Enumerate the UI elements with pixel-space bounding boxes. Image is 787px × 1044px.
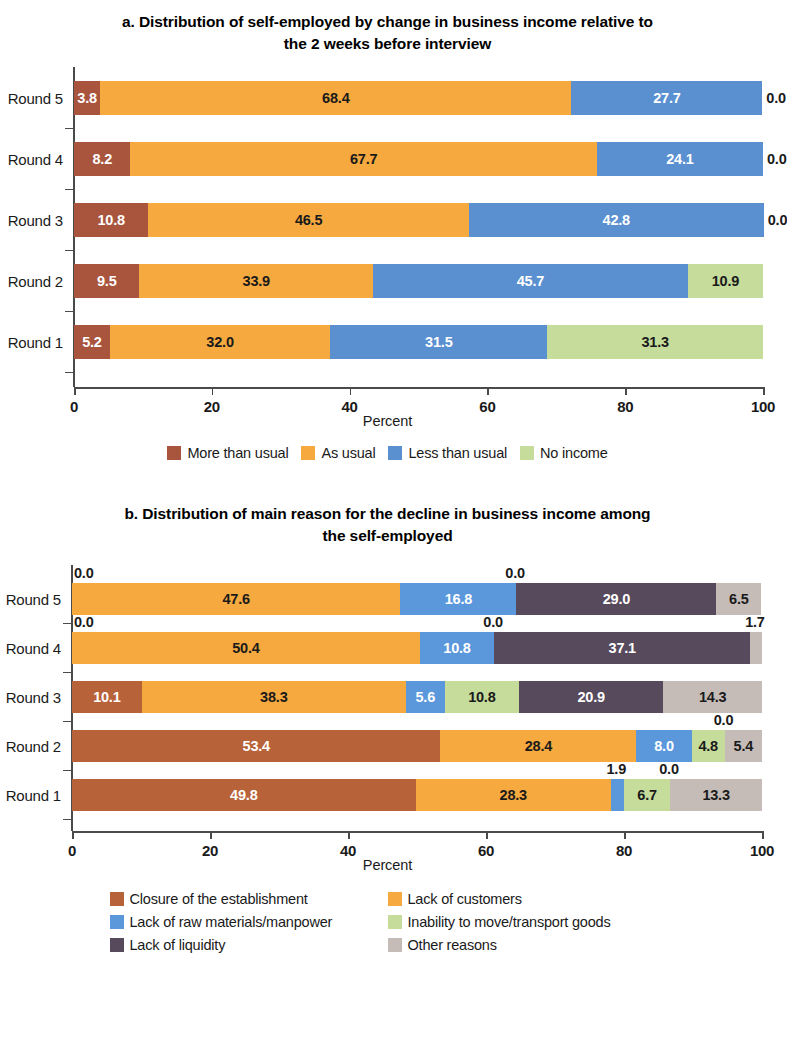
segment-value: 20.9 bbox=[578, 690, 605, 705]
segment-value: 9.5 bbox=[97, 274, 117, 289]
segment-value: 68.4 bbox=[322, 91, 349, 106]
bar-segment: 50.4 bbox=[72, 632, 420, 664]
bar-segment: 28.3 bbox=[416, 779, 611, 811]
legend-swatch-icon bbox=[110, 892, 124, 906]
bar-row: Round 310.846.542.80.0 bbox=[0, 203, 775, 237]
segment-value-outside: 0.0 bbox=[659, 762, 679, 777]
bar-track: 53.428.48.04.85.40.0 bbox=[72, 730, 762, 762]
segment-value: 16.8 bbox=[445, 592, 472, 607]
segment-value: 32.0 bbox=[206, 335, 233, 350]
segment-value: 5.4 bbox=[734, 739, 754, 754]
legend-item[interactable]: Less than usual bbox=[388, 445, 507, 461]
bar-track: 3.868.427.70.0 bbox=[74, 81, 763, 115]
legend-label: Lack of liquidity bbox=[130, 937, 226, 953]
bar-segment: 53.4 bbox=[72, 730, 440, 762]
x-axis-tick bbox=[763, 387, 765, 395]
legend-label: Other reasons bbox=[408, 937, 497, 953]
legend-swatch-icon bbox=[520, 446, 534, 460]
segment-value: 31.3 bbox=[641, 335, 668, 350]
bar-segment: 45.7 bbox=[373, 264, 688, 298]
bar-segment: 4.8 bbox=[692, 730, 725, 762]
bar-track: 8.267.724.10.0 bbox=[74, 142, 763, 176]
panel-b-legend: Closure of the establishmentLack of cust… bbox=[22, 891, 775, 953]
segment-value: 8.0 bbox=[654, 739, 674, 754]
segment-value: 3.8 bbox=[77, 91, 97, 106]
legend-swatch-icon bbox=[388, 915, 402, 929]
legend-label: Less than usual bbox=[408, 445, 507, 461]
segment-value: 38.3 bbox=[260, 690, 287, 705]
segment-value: 50.4 bbox=[232, 641, 259, 656]
segment-value: 8.2 bbox=[92, 152, 112, 167]
row-label: Round 5 bbox=[0, 90, 70, 107]
bar-segment: 5.6 bbox=[406, 681, 445, 713]
y-axis-tick bbox=[65, 311, 74, 313]
segment-value: 33.9 bbox=[243, 274, 270, 289]
bar-segment: 10.8 bbox=[420, 632, 495, 664]
bar-segment: 37.1 bbox=[494, 632, 750, 664]
segment-value: 10.1 bbox=[93, 690, 120, 705]
legend-item[interactable]: Inability to move/transport goods bbox=[388, 914, 688, 930]
segment-value: 10.9 bbox=[712, 274, 739, 289]
bar-track: 47.616.829.06.50.00.0 bbox=[72, 583, 762, 615]
legend-swatch-icon bbox=[388, 892, 402, 906]
bar-segment: 31.5 bbox=[330, 325, 547, 359]
bar-segment: 33.9 bbox=[139, 264, 373, 298]
x-axis-tick bbox=[212, 387, 214, 395]
panel-b-title-line1: b. Distribution of main reason for the d… bbox=[60, 503, 715, 525]
legend-item[interactable]: Closure of the establishment bbox=[110, 891, 388, 907]
bar-segment: 49.8 bbox=[72, 779, 416, 811]
bar-row: Round 48.267.724.10.0 bbox=[0, 142, 775, 176]
row-label: Round 2 bbox=[0, 273, 70, 290]
row-label: Round 3 bbox=[0, 689, 68, 706]
bar-row: Round 450.410.837.11.70.00.01.7 bbox=[0, 632, 775, 664]
bar-segment: 5.2 bbox=[74, 325, 110, 359]
segment-value: 46.5 bbox=[295, 213, 322, 228]
panel-a-plot: Round 53.868.427.70.0Round 48.267.724.10… bbox=[0, 67, 775, 387]
panel-b: b. Distribution of main reason for the d… bbox=[0, 495, 775, 1044]
legend-item[interactable]: As usual bbox=[301, 445, 375, 461]
bar-segment: 32.0 bbox=[110, 325, 330, 359]
bar-track: 49.828.31.96.713.31.90.0 bbox=[72, 779, 762, 811]
panel-a: a. Distribution of self-employed by chan… bbox=[0, 0, 775, 495]
segment-value: 27.7 bbox=[653, 91, 680, 106]
legend-swatch-icon bbox=[110, 915, 124, 929]
panel-a-title: a. Distribution of self-employed by chan… bbox=[0, 0, 775, 55]
bar-row: Round 15.232.031.531.3 bbox=[0, 325, 775, 359]
bar-track: 10.138.35.610.820.914.3 bbox=[72, 681, 762, 713]
segment-value: 31.5 bbox=[425, 335, 452, 350]
bar-track: 50.410.837.11.70.00.01.7 bbox=[72, 632, 762, 664]
bar-segment: 24.1 bbox=[597, 142, 763, 176]
bar-segment: 13.3 bbox=[670, 779, 762, 811]
legend-item[interactable]: Other reasons bbox=[388, 937, 688, 953]
panel-a-title-line2: the 2 weeks before interview bbox=[60, 33, 715, 55]
legend-item[interactable]: Lack of customers bbox=[388, 891, 688, 907]
bar-segment: 3.8 bbox=[74, 81, 100, 115]
bar-segment: 8.0 bbox=[636, 730, 691, 762]
panel-b-x-axis: 020406080100Percent bbox=[0, 831, 775, 877]
segment-value: 29.0 bbox=[603, 592, 630, 607]
bar-segment: 5.4 bbox=[725, 730, 762, 762]
segment-value: 47.6 bbox=[223, 592, 250, 607]
legend-label: No income bbox=[540, 445, 608, 461]
bar-segment: 10.1 bbox=[72, 681, 142, 713]
segment-value: 14.3 bbox=[699, 690, 726, 705]
bar-row: Round 310.138.35.610.820.914.3 bbox=[0, 681, 775, 713]
legend-item[interactable]: More than usual bbox=[167, 445, 288, 461]
segment-value-outside: 0.0 bbox=[766, 91, 786, 106]
segment-value-outside: 0.0 bbox=[74, 615, 94, 630]
bar-segment: 6.5 bbox=[716, 583, 761, 615]
segment-value: 6.7 bbox=[637, 788, 657, 803]
bar-track: 10.846.542.80.0 bbox=[74, 203, 763, 237]
legend-item[interactable]: Lack of liquidity bbox=[110, 937, 388, 953]
panel-b-title-line2: the self-employed bbox=[60, 525, 715, 547]
panel-b-plot: Round 547.616.829.06.50.00.0Round 450.41… bbox=[0, 565, 775, 831]
segment-value-outside: 0.0 bbox=[505, 566, 525, 581]
legend-item[interactable]: Lack of raw materials/manpower bbox=[110, 914, 388, 930]
x-axis-tick bbox=[74, 387, 76, 395]
bar-segment: 47.6 bbox=[72, 583, 400, 615]
legend-swatch-icon bbox=[167, 446, 181, 460]
legend-item[interactable]: No income bbox=[520, 445, 608, 461]
y-axis-tick bbox=[63, 623, 72, 625]
x-axis-tick bbox=[72, 831, 74, 839]
x-axis-title: Percent bbox=[0, 857, 775, 873]
